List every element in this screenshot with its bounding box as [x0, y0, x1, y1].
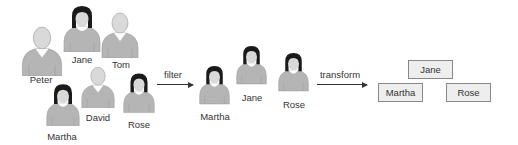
male-person-icon	[100, 12, 140, 58]
female-person-icon	[62, 6, 102, 52]
result-box-martha: Martha	[378, 83, 423, 102]
result-box-rose: Rose	[446, 83, 491, 102]
person-label: David	[86, 112, 110, 123]
person-peter	[20, 26, 64, 76]
person-label: Jane	[72, 54, 93, 65]
female-person-icon	[122, 72, 156, 114]
person-martha	[45, 84, 81, 126]
person-rose	[122, 72, 156, 114]
person-label: Martha	[200, 111, 230, 122]
male-person-icon	[80, 66, 116, 108]
transform-label: transform	[320, 69, 360, 80]
female-person-icon	[277, 51, 310, 93]
person-jane-filtered	[235, 44, 268, 86]
female-person-icon	[235, 44, 268, 86]
person-label: Rose	[128, 119, 150, 130]
person-david	[80, 66, 116, 108]
person-label: Jane	[242, 92, 263, 103]
filter-arrow	[157, 84, 193, 85]
person-rose-filtered	[277, 51, 310, 93]
person-label: Rose	[283, 99, 305, 110]
female-person-icon	[198, 64, 231, 106]
filter-label: filter	[164, 69, 182, 80]
person-tom	[100, 12, 140, 58]
person-label: Martha	[47, 131, 77, 142]
female-person-icon	[45, 84, 81, 126]
result-box-jane: Jane	[408, 60, 453, 79]
person-martha-filtered	[198, 64, 231, 106]
transform-arrow	[317, 84, 367, 85]
male-person-icon	[20, 26, 64, 76]
person-jane	[62, 6, 102, 52]
